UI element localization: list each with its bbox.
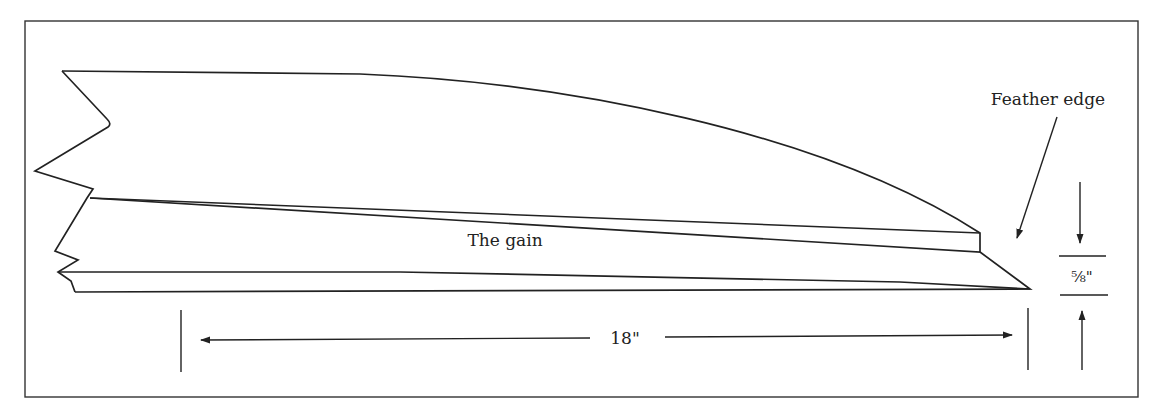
length-arrow-right <box>665 335 1012 337</box>
scarf-joint-diagram: Feather edge The gain 18" ⅝" <box>0 0 1161 402</box>
upper-plank-outline <box>62 71 980 252</box>
feather-edge-arrow <box>1017 117 1057 238</box>
the-gain-label: The gain <box>467 230 542 250</box>
lower-plank-bottom <box>75 289 1030 292</box>
length-label: 18" <box>610 328 639 348</box>
diagram-frame <box>25 21 1138 397</box>
length-arrow-left <box>201 338 590 340</box>
broken-left-edge <box>35 71 110 292</box>
gain-line-upper <box>90 198 980 233</box>
lower-plank-outline <box>58 252 1030 289</box>
feather-edge-label: Feather edge <box>991 89 1105 109</box>
thickness-label: ⅝" <box>1071 268 1092 286</box>
